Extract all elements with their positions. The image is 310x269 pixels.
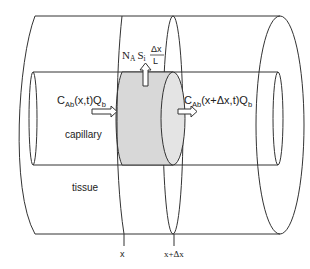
capillary-tissue-diagram: CAb(x,t)Qb CAb(x+Δx,t)Qb NASi Δx L capil… <box>0 0 310 269</box>
svg-text:L: L <box>153 56 158 66</box>
x-dx-mark-label: x+Δx <box>164 249 184 259</box>
tissue-label: tissue <box>72 182 99 193</box>
svg-text:Δx: Δx <box>151 44 162 54</box>
x-mark-label: x <box>120 249 125 259</box>
svg-text:NASi: NASi <box>122 49 146 63</box>
outflow-label: CAb(x+Δx,t)Qb <box>184 94 252 109</box>
control-volume-slab <box>116 72 185 165</box>
inflow-label: CAb(x,t)Qb <box>57 94 106 109</box>
capillary-label: capillary <box>65 129 102 140</box>
transfer-label: NASi Δx L <box>122 44 164 66</box>
